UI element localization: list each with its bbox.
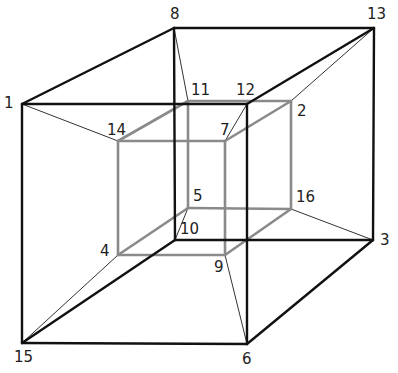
outer-edge-1-8: [22, 28, 174, 104]
inner-edge-5-16: [188, 208, 291, 209]
connector-edge-15-4: [22, 255, 118, 343]
outer-edge-15-6: [22, 343, 247, 344]
outer-edge-12-13: [247, 28, 374, 104]
connector-edge-8-11: [174, 28, 188, 101]
vertex-label-11: 11: [191, 83, 210, 98]
outer-edge-6-3: [247, 240, 373, 344]
vertex-label-2: 2: [297, 104, 307, 119]
connector-edge-3-16: [291, 209, 373, 240]
vertex-label-13: 13: [367, 7, 386, 22]
outer-edge-8-10: [174, 28, 175, 240]
vertex-label-10: 10: [180, 222, 199, 237]
vertex-label-16: 16: [296, 190, 315, 205]
outer-cube: [22, 28, 374, 344]
inner-edge-4-5: [118, 208, 188, 255]
vertex-label-8: 8: [170, 7, 180, 22]
vertex-label-7: 7: [220, 123, 230, 138]
vertex-label-5: 5: [193, 189, 203, 204]
outer-edge-15-10: [22, 240, 175, 343]
vertex-label-14: 14: [107, 123, 126, 138]
vertex-label-1: 1: [4, 96, 14, 111]
vertex-label-3: 3: [380, 233, 390, 248]
connector-edge-6-9: [225, 255, 247, 344]
inner-edge-9-16: [225, 209, 291, 255]
vertex-label-9: 9: [214, 260, 224, 275]
inner-edge-14-11: [118, 101, 188, 141]
inner-edge-7-2: [225, 101, 291, 141]
vertex-label-15: 15: [14, 350, 33, 365]
vertex-label-12: 12: [236, 83, 255, 98]
vertex-label-4: 4: [100, 244, 110, 259]
connector-edge-1-14: [22, 104, 118, 141]
inner-cube: [118, 101, 291, 255]
outer-edge-13-3: [373, 28, 374, 240]
connector-lines: [22, 28, 374, 344]
connector-edge-13-2: [291, 28, 374, 101]
vertex-label-6: 6: [242, 352, 252, 367]
